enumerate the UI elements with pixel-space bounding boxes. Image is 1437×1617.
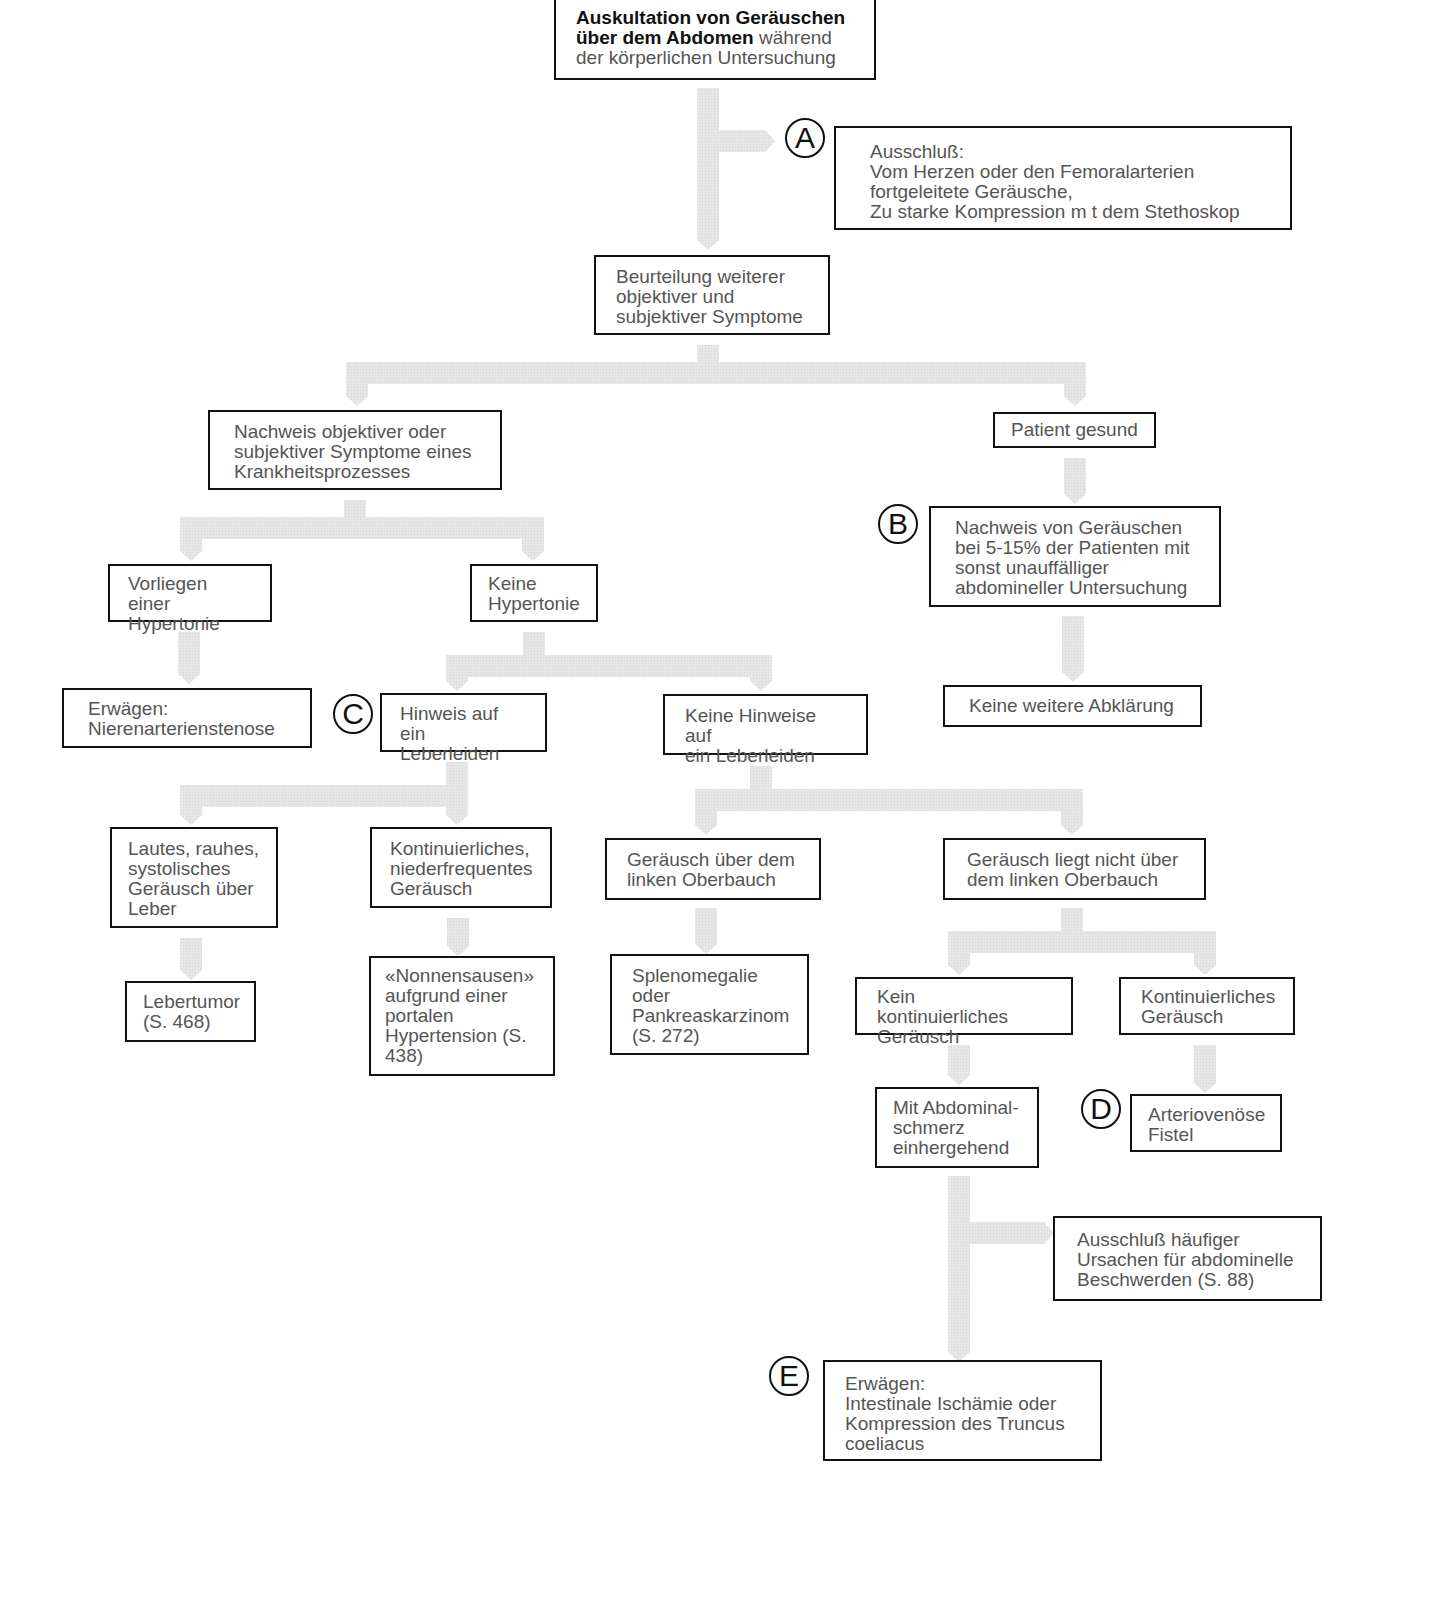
- node-nachweis-geraeusche: Nachweis von Geräuschen bei 5-15% der Pa…: [929, 506, 1221, 607]
- node-nonnensausen: «Nonnensausen» aufgrund einer portalen H…: [369, 956, 555, 1076]
- connector-arrows: [0, 0, 1437, 1617]
- marker-b-icon: B: [878, 504, 918, 544]
- node-keine-hypertonie: Keine Hypertonie: [470, 564, 598, 622]
- marker-c-icon: C: [333, 694, 373, 734]
- node-patient-gesund: Patient gesund: [993, 412, 1156, 448]
- node-ausschluss-a: Ausschluß: Vom Herzen oder den Femoralar…: [834, 126, 1292, 230]
- root-node: Auskultation von Geräuschen über dem Abd…: [554, 0, 876, 80]
- node-nierenarterienstenose: Erwägen: Nierenarterienstenose: [62, 688, 312, 748]
- node-lautes-systolisches: Lautes, rauhes, systolisches Geräusch üb…: [110, 827, 278, 928]
- node-ueber-oberbauch: Geräusch über dem linken Oberbauch: [605, 838, 821, 900]
- node-nicht-oberbauch: Geräusch liegt nicht über dem linken Obe…: [943, 838, 1206, 900]
- marker-a-icon: A: [785, 118, 825, 158]
- node-kein-kontinuierlich: Kein kontinuierliches Geräusch: [855, 977, 1073, 1035]
- node-kontinuierlich-nieder: Kontinuierliches, niederfrequentes Geräu…: [370, 827, 552, 908]
- node-ausschluss-ursachen: Ausschluß häufiger Ursachen für abdomine…: [1053, 1216, 1322, 1301]
- node-beurteilung: Beurteilung weiterer objektiver und subj…: [594, 255, 830, 335]
- node-hypertonie: Vorliegen einer Hypertonie: [108, 564, 272, 622]
- node-splenomegalie: Splenomegalie oder Pankreaskarzinom (S. …: [610, 954, 809, 1055]
- marker-e-icon: E: [769, 1356, 809, 1396]
- node-abdominalschmerz: Mit Abdominal- schmerz einhergehend: [875, 1087, 1039, 1168]
- node-kontinuierlich: Kontinuierliches Geräusch: [1119, 977, 1295, 1035]
- marker-d-icon: D: [1081, 1089, 1121, 1129]
- node-av-fistel: Arteriovenöse Fistel: [1130, 1094, 1282, 1152]
- node-keine-abklaerung: Keine weitere Abklärung: [943, 685, 1202, 727]
- node-lebertumor: Lebertumor (S. 468): [125, 981, 256, 1042]
- node-ischaemie: Erwägen: Intestinale Ischämie oder Kompr…: [823, 1360, 1102, 1461]
- node-keine-hinweise-leber: Keine Hinweise auf ein Leberleiden: [663, 694, 868, 755]
- node-nachweis-krankheit: Nachweis objektiver oder subjektiver Sym…: [208, 410, 502, 490]
- node-hinweis-leber: Hinweis auf ein Leberleiden: [380, 693, 547, 752]
